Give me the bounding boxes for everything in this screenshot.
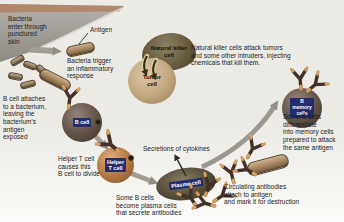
antibody-y-icon [58, 84, 81, 111]
tumor-cell-label: Tumor cell [143, 74, 161, 87]
annotation-bcell-attaches: B cell attaches to a bacterium, leaving … [3, 95, 59, 141]
annotation-some-b-memory: Some B cells differentiate into memory c… [283, 113, 343, 151]
bacterium-rod [8, 72, 24, 81]
b-cell-label: B cell [73, 118, 92, 126]
immune-response-diagram: B cell Helper T cell Plasma cell Natural… [0, 0, 344, 222]
annotation-circulating: Circulating antibodies attach to antigen… [224, 183, 324, 206]
annotation-helpert-causes: Helper T cell causes this B cell to divi… [58, 155, 110, 178]
natural-killer-cell-label: Natural killer cell [151, 45, 187, 58]
annotation-secretions: Secretions of cytokines [143, 145, 223, 153]
annotation-bacteria-trigger: Bacteria trigger an inflammatory respons… [67, 57, 129, 80]
tumor-cell: Tumor cell [128, 58, 176, 104]
bacterium-rod [19, 79, 36, 90]
antigen-bacterium-rod [65, 41, 96, 58]
annotation-antigen: Antigen [90, 26, 124, 34]
annotation-some-b-plasma: Some B cells become plasma cells that se… [116, 194, 208, 217]
annotation-bacteria-enter: Bacteria enter through punctured skin [8, 15, 64, 46]
antigen-fragment-dot [128, 155, 134, 161]
skin-surface [0, 4, 124, 13]
arrow-bacteria-right [30, 50, 54, 52]
antigen-fragment-dot [95, 119, 101, 125]
annotation-nk-attack: Natural killer cells attack tumors and s… [191, 44, 303, 67]
